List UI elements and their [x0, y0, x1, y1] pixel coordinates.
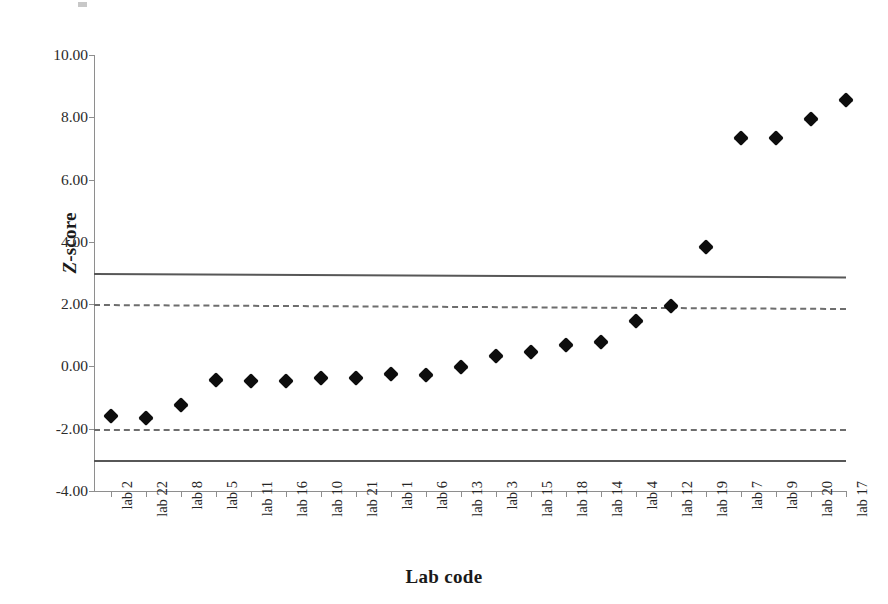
x-tick-label: lab 20 [819, 481, 835, 567]
plot-area [94, 46, 846, 491]
y-tick-mark [89, 117, 95, 118]
data-point [313, 370, 329, 386]
data-point [138, 410, 154, 426]
data-point [733, 130, 749, 146]
y-axis-tick-labels: 10.008.006.004.002.000.00-2.00-4.00 [26, 0, 88, 604]
data-point [768, 130, 784, 146]
data-point [278, 374, 294, 390]
data-point [838, 92, 854, 108]
data-point [208, 373, 224, 389]
data-point [558, 337, 574, 353]
x-tick-label: lab 9 [784, 481, 800, 567]
x-tick-label: lab 21 [364, 481, 380, 567]
x-tick-label: lab 18 [574, 481, 590, 567]
x-tick-label: lab 1 [399, 481, 415, 567]
x-tick-label: lab 5 [224, 481, 240, 567]
data-point [663, 298, 679, 314]
data-point [698, 239, 714, 255]
x-tick-label: lab 12 [679, 481, 695, 567]
x-tick-label: lab 7 [749, 481, 765, 567]
x-tick-label: lab 16 [294, 481, 310, 567]
data-point [803, 111, 819, 127]
data-point [348, 370, 364, 386]
data-point [243, 373, 259, 389]
y-tick-label: -4.00 [30, 483, 88, 498]
lower-warning-limit-line [94, 429, 846, 431]
y-tick-mark [89, 180, 95, 181]
x-tick-label: lab 13 [469, 481, 485, 567]
y-tick-label: 10.00 [30, 47, 88, 62]
y-tick-mark [89, 242, 95, 243]
data-point [628, 313, 644, 329]
data-point [383, 366, 399, 382]
y-tick-label: 4.00 [30, 234, 88, 249]
x-axis-title: Lab code [0, 566, 888, 588]
x-tick-label: lab 15 [539, 481, 555, 567]
x-tick-label: lab 22 [154, 481, 170, 567]
data-point [173, 398, 189, 414]
y-tick-mark [89, 55, 95, 56]
data-point [593, 334, 609, 350]
x-tick-label: lab 2 [119, 481, 135, 567]
y-tick-label: 2.00 [30, 296, 88, 311]
x-tick-label: lab 19 [714, 481, 730, 567]
data-point [488, 349, 504, 365]
y-tick-mark [89, 366, 95, 367]
y-tick-label: -2.00 [30, 421, 88, 436]
x-tick-label: lab 6 [434, 481, 450, 567]
x-axis-tick-labels: lab 2lab 22lab 8lab 5lab 11lab 16lab 10l… [94, 491, 846, 569]
z-score-chart: Z-score 10.008.006.004.002.000.00-2.00-4… [0, 0, 888, 604]
data-point [523, 345, 539, 361]
x-tick-label: lab 4 [644, 481, 660, 567]
x-tick-label: lab 14 [609, 481, 625, 567]
lower-action-limit-line [94, 460, 846, 462]
x-tick-label: lab 3 [504, 481, 520, 567]
x-tick-label: lab 8 [189, 481, 205, 567]
y-tick-label: 8.00 [30, 109, 88, 124]
data-point [418, 367, 434, 383]
upper-action-limit-line [94, 273, 846, 278]
x-tick-label: lab 11 [259, 481, 275, 567]
y-tick-label: 0.00 [30, 358, 88, 373]
data-point [453, 360, 469, 376]
x-tick-label: lab 17 [854, 481, 870, 567]
upper-warning-limit-line [94, 304, 846, 310]
x-tick-label: lab 10 [329, 481, 345, 567]
data-point [103, 408, 119, 424]
y-tick-label: 6.00 [30, 172, 88, 187]
